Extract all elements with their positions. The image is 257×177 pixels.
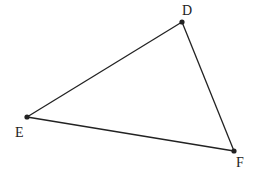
triangle-edges xyxy=(27,22,234,151)
triangle-diagram: D E F xyxy=(0,0,257,177)
segment-ef xyxy=(27,117,234,151)
label-d: D xyxy=(182,3,192,18)
vertex-d xyxy=(179,19,184,24)
segment-de xyxy=(27,22,182,117)
vertex-f xyxy=(231,148,236,153)
label-f: F xyxy=(236,155,244,170)
segment-fd xyxy=(182,22,234,151)
vertex-e xyxy=(24,114,29,119)
label-e: E xyxy=(15,125,24,140)
